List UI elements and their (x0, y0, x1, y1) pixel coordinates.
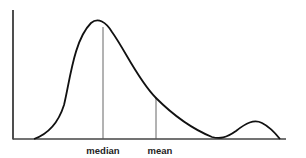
median-label: median (86, 145, 119, 156)
distribution-curve (34, 20, 280, 139)
distribution-chart: median mean (0, 0, 306, 158)
mean-label: mean (148, 145, 173, 156)
